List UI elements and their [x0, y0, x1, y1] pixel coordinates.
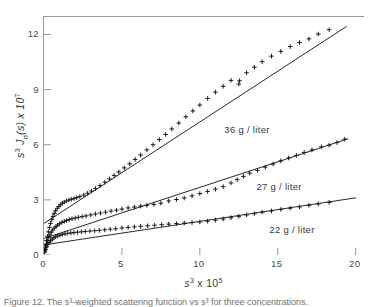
label-22: 22 g / liter: [269, 224, 314, 235]
x-tick-label: 5: [118, 258, 124, 269]
x-axis-tick-labels: 05101520: [43, 258, 364, 272]
y-tick-label: 3: [33, 193, 39, 204]
chart-svg: [44, 17, 365, 255]
x-axis-title-text: s3 x 105: [184, 277, 222, 289]
y-tick-label: 9: [33, 83, 39, 94]
series-markers-1: [44, 27, 331, 252]
x-tick-label: 10: [193, 258, 204, 269]
y-axis-tick-labels: 036912: [16, 16, 39, 254]
y-tick-label: 6: [33, 138, 39, 149]
x-tick-label: 0: [40, 258, 46, 269]
x-tick-label: 20: [349, 258, 360, 269]
y-tick-label: 12: [28, 28, 39, 39]
label-27: 27 g / liter: [256, 181, 301, 192]
label-36: 36 g / liter: [224, 124, 269, 135]
x-axis-title: s3 x 105: [43, 277, 364, 289]
x-tick-label: 15: [271, 258, 282, 269]
y-tick-label: 0: [33, 249, 39, 260]
figure-caption: Figure 12. The s³-weighted scattering fu…: [4, 297, 382, 307]
plot-area: [43, 16, 364, 254]
fit-line-1: [44, 27, 346, 224]
